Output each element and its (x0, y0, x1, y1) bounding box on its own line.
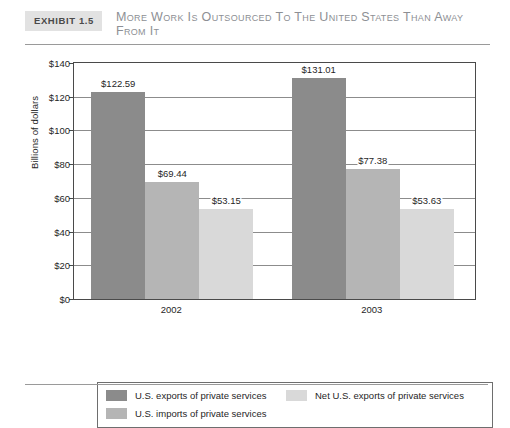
legend-item[interactable]: U.S. imports of private services (106, 408, 266, 419)
legend-item[interactable]: Net U.S. exports of private services (286, 390, 464, 401)
exhibit-header: Exhibit 1.5 More Work Is Outsourced to t… (25, 10, 490, 40)
bar (145, 182, 199, 299)
exhibit-number-badge: Exhibit 1.5 (25, 11, 102, 31)
bar (400, 209, 454, 299)
bar (199, 209, 253, 299)
bar-value-label: $131.01 (301, 64, 337, 75)
bar-value-label: $53.63 (411, 195, 442, 206)
bar (91, 92, 145, 299)
bar-value-label: $77.38 (357, 155, 388, 166)
chart-legend: U.S. exports of private servicesU.S. imp… (97, 382, 493, 428)
chart-region: Billions of dollars $122.59$69.44$53.15$… (25, 54, 477, 379)
y-axis-tick-label: $80 (28, 159, 70, 170)
plot-area: $122.59$69.44$53.15$131.01$77.38$53.63 (73, 62, 476, 300)
y-axis-tick-label: $100 (28, 125, 70, 136)
bar (346, 169, 400, 299)
y-axis-tick-label: $60 (28, 192, 70, 203)
header-divider (25, 44, 490, 45)
x-axis-category-label: 2003 (361, 304, 382, 315)
legend-color-swatch (106, 390, 127, 401)
bar-value-label: $53.15 (211, 195, 242, 206)
y-axis-tick-label: $0 (28, 294, 70, 305)
legend-color-swatch (286, 390, 307, 401)
legend-item-label: U.S. exports of private services (135, 390, 266, 401)
legend-item-label: Net U.S. exports of private services (315, 390, 464, 401)
y-axis-tick-label: $40 (28, 226, 70, 237)
exhibit-title: More Work Is Outsourced to the United St… (116, 10, 476, 38)
bar-value-label: $122.59 (100, 78, 136, 89)
y-axis-tick-label: $120 (28, 91, 70, 102)
legend-item-label: U.S. imports of private services (135, 408, 266, 419)
y-axis-tick-label: $140 (28, 58, 70, 69)
legend-color-swatch (106, 408, 127, 419)
bar-value-label: $69.44 (157, 168, 188, 179)
legend-item[interactable]: U.S. exports of private services (106, 390, 266, 401)
bar (292, 78, 346, 299)
footer-divider (25, 384, 488, 385)
y-axis-tick-label: $20 (28, 260, 70, 271)
x-axis-category-label: 2002 (161, 304, 182, 315)
